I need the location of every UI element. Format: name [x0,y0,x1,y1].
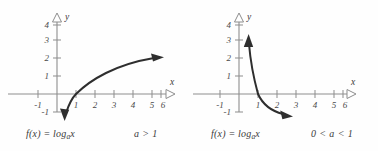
x-tick-label-4: 4 [131,100,136,110]
x-tick-label-6: 6 [343,100,348,110]
y-tick-label-1: 1 [45,71,50,81]
curve-arrowhead-up-icon [244,34,253,47]
x-tick-label-2: 2 [275,100,280,110]
x-tick-label-2: 2 [93,100,98,110]
y-tick-label-2: 2 [227,53,232,63]
y-tick-label-3: 3 [226,35,232,45]
caption-left: f(x) = logax a > 1 [0,126,189,151]
caption-condition-right: 0 < a < 1 [311,128,353,139]
y-axis-arrowhead-icon [235,13,244,22]
caption-argument: x [255,128,260,139]
y-tick-label--1: -1 [42,107,50,117]
plot-area-left: -1 1 2 3 4 5 6 -1 1 2 3 4 x y [0,0,189,128]
caption-condition-left: a > 1 [134,128,158,139]
curve-arrowhead-down-icon [60,109,69,122]
caption-function-left: f(x) = logax [26,128,75,141]
x-tick-label-4: 4 [313,100,318,110]
caption-argument: x [70,128,75,139]
x-tick-label-6: 6 [161,100,166,110]
log-curve-increasing [66,58,154,113]
y-tick-label--1: -1 [224,107,232,117]
x-tick-label-1: 1 [256,100,261,110]
plot-area-right: -1 1 2 3 4 5 6 -1 1 2 3 4 x y [189,0,378,128]
caption-function-text: f(x) = log [211,128,251,139]
x-tick-label-3: 3 [111,100,117,110]
panel-increasing-log: -1 1 2 3 4 5 6 -1 1 2 3 4 x y f(x) = log… [0,0,189,151]
logarithmic-functions-figure: -1 1 2 3 4 5 6 -1 1 2 3 4 x y f(x) = log… [0,0,378,151]
y-tick-label-4: 4 [227,20,232,30]
x-tick-label-5: 5 [150,100,155,110]
caption-function-text: f(x) = log [26,128,66,139]
x-axis-arrowhead-icon [347,90,356,99]
x-axis-label: x [169,77,175,87]
x-tick-label-3: 3 [293,100,299,110]
x-tick-label-5: 5 [332,100,337,110]
curve-arrowhead-down-right-icon [280,111,293,120]
x-axis-arrowhead-icon [166,90,175,99]
caption-right: f(x) = logax 0 < a < 1 [189,126,378,151]
x-axis-label: x [350,77,356,87]
y-tick-label-4: 4 [45,20,50,30]
caption-function-right: f(x) = logax [211,128,260,141]
y-tick-label-1: 1 [227,71,232,81]
y-tick-label-2: 2 [45,53,50,63]
y-axis-label: y [246,12,252,22]
y-axis-label: y [64,12,70,22]
panel-decreasing-log: -1 1 2 3 4 5 6 -1 1 2 3 4 x y f(x) = log… [189,0,378,151]
curve-arrowhead-right-icon [151,53,164,61]
y-axis-arrowhead-icon [53,13,62,22]
x-tick-label-1: 1 [74,100,79,110]
y-tick-label-3: 3 [44,35,50,45]
